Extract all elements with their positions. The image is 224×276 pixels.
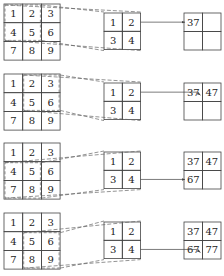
- input-cell: 3: [48, 78, 54, 89]
- input-cell: 9: [48, 254, 54, 265]
- input-cell: 5: [29, 166, 35, 177]
- kernel-cell: 3: [110, 35, 116, 46]
- panel-step-4: 123456789123437476777: [4, 213, 221, 269]
- kernel-cell: 1: [110, 226, 116, 237]
- output-cell: 37: [187, 156, 200, 167]
- input-cell: 2: [29, 217, 35, 228]
- output-cell: 37: [187, 17, 200, 28]
- input-matrix: 123456789: [4, 213, 60, 269]
- kernel-cell: 4: [128, 244, 134, 255]
- input-cell: 5: [29, 27, 35, 38]
- panel-step-3: 1234567891234374767: [4, 143, 221, 199]
- input-cell: 2: [29, 147, 35, 158]
- input-matrix: 123456789: [4, 143, 60, 199]
- input-cell: 3: [48, 217, 54, 228]
- input-cell: 4: [10, 27, 16, 38]
- output-cell: 47: [205, 87, 218, 98]
- input-cell: 6: [48, 97, 54, 108]
- input-cell: 3: [48, 147, 54, 158]
- input-cell: 7: [10, 45, 16, 56]
- kernel-matrix: 1234: [104, 222, 141, 259]
- convolution-diagram: 1234567891234371234567891234374712345678…: [0, 0, 224, 276]
- input-cell: 9: [48, 184, 54, 195]
- kernel-cell: 1: [110, 87, 116, 98]
- kernel-cell: 4: [128, 35, 134, 46]
- input-cell: 1: [10, 217, 16, 228]
- kernel-cell: 1: [110, 17, 116, 28]
- input-cell: 6: [48, 27, 54, 38]
- input-cell: 9: [48, 115, 54, 126]
- kernel-cell: 2: [128, 156, 134, 167]
- kernel-cell: 2: [128, 17, 134, 28]
- input-cell: 3: [48, 8, 54, 19]
- output-cell: 37: [187, 226, 200, 237]
- input-cell: 4: [10, 166, 16, 177]
- output-matrix: 37: [184, 13, 221, 50]
- output-cell: 47: [205, 156, 218, 167]
- input-cell: 8: [29, 45, 35, 56]
- output-cell: 67: [187, 174, 200, 185]
- input-cell: 1: [10, 78, 16, 89]
- output-cell: 77: [205, 244, 218, 255]
- output-matrix: 37476777: [184, 222, 221, 259]
- panel-step-1: 123456789123437: [4, 4, 221, 60]
- input-cell: 4: [10, 236, 16, 247]
- kernel-cell: 3: [110, 105, 116, 116]
- input-cell: 6: [48, 166, 54, 177]
- input-cell: 8: [29, 254, 35, 265]
- output-matrix: 3747: [184, 83, 221, 120]
- kernel-matrix: 1234: [104, 13, 141, 50]
- input-cell: 7: [10, 115, 16, 126]
- kernel-cell: 2: [128, 226, 134, 237]
- input-cell: 7: [10, 254, 16, 265]
- input-cell: 2: [29, 8, 35, 19]
- kernel-cell: 2: [128, 87, 134, 98]
- input-cell: 7: [10, 184, 16, 195]
- output-matrix: 374767: [184, 152, 221, 189]
- output-cell: 47: [205, 226, 218, 237]
- receptive-field-projection: [5, 5, 141, 51]
- input-cell: 1: [10, 8, 16, 19]
- input-cell: 8: [29, 184, 35, 195]
- kernel-cell: 3: [110, 244, 116, 255]
- input-matrix: 123456789: [4, 74, 60, 130]
- input-cell: 5: [29, 236, 35, 247]
- panel-step-2: 12345678912343747: [4, 74, 221, 130]
- input-cell: 5: [29, 97, 35, 108]
- kernel-cell: 4: [128, 174, 134, 185]
- kernel-cell: 1: [110, 156, 116, 167]
- kernel-matrix: 1234: [104, 83, 141, 120]
- input-cell: 1: [10, 147, 16, 158]
- input-cell: 8: [29, 115, 35, 126]
- input-cell: 4: [10, 97, 16, 108]
- input-cell: 2: [29, 78, 35, 89]
- input-cell: 6: [48, 236, 54, 247]
- kernel-matrix: 1234: [104, 152, 141, 189]
- receptive-field-projection: [5, 151, 141, 198]
- input-cell: 9: [48, 45, 54, 56]
- kernel-cell: 4: [128, 105, 134, 116]
- input-matrix: 123456789: [4, 4, 60, 60]
- kernel-cell: 3: [110, 174, 116, 185]
